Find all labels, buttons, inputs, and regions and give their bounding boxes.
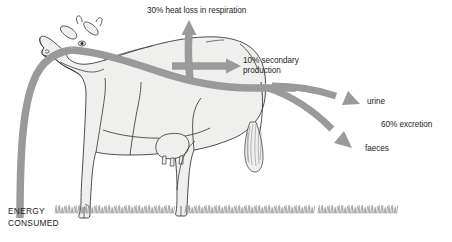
energy-consumed-arrow [20, 50, 72, 218]
cow-ear-right [84, 22, 99, 35]
label-energy-consumed-line1: ENERGY [8, 206, 45, 216]
cow-teat-2 [170, 158, 174, 166]
cow-eye-pupil [81, 42, 84, 45]
faeces-arrow [268, 88, 352, 148]
label-heat-loss: 30% heat loss in respiration [147, 6, 246, 16]
label-secondary-production: 10% secondaryproduction [243, 56, 299, 76]
diagram-canvas: 30% heat loss in respiration 10% seconda… [0, 0, 452, 242]
label-excretion: 60% excretion [381, 120, 432, 130]
cow-horn-left [77, 16, 83, 24]
label-urine: urine [367, 97, 385, 107]
cow-teat-1 [162, 156, 166, 164]
label-secondary-production-line2: production [243, 66, 281, 75]
label-energy-consumed-line2: CONSUMED [8, 218, 59, 228]
grass-row [55, 205, 398, 213]
cow-silhouette [40, 16, 266, 218]
cow-ear-left [60, 26, 76, 39]
label-energy-consumed: ENERGYCONSUMED [8, 206, 59, 229]
cow-horn-right [96, 18, 102, 26]
label-faeces: faeces [365, 144, 389, 154]
label-secondary-production-line1: 10% secondary [243, 56, 299, 65]
